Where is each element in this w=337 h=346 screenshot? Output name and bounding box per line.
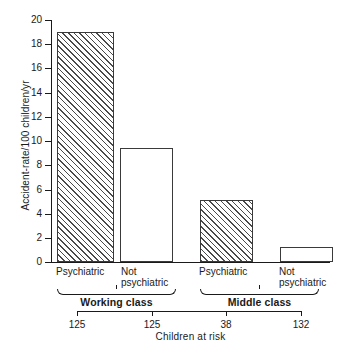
bar-label-line2: psychiatric — [279, 277, 337, 288]
y-tick-label-10: 10 — [20, 136, 42, 146]
bar-middle-class-psychiatric — [200, 200, 253, 262]
risk-tick-4 — [301, 311, 302, 316]
risk-label-1: 125 — [57, 319, 97, 330]
y-tick-label-2: 2 — [20, 233, 42, 243]
bar-working-class-psychiatric — [57, 32, 114, 262]
children-at-risk-axis-title: Children at risk — [51, 331, 330, 342]
y-tick-label-18: 18 — [20, 39, 42, 49]
risk-tick-2 — [152, 311, 153, 316]
group-label-working-class: Working class — [57, 296, 176, 308]
risk-tick-3 — [226, 311, 227, 316]
y-tick-label-12: 12 — [20, 112, 42, 122]
y-tick-label-14: 14 — [20, 88, 42, 98]
group-brace-tick-middle-class — [259, 285, 260, 289]
x-axis-line — [51, 262, 330, 263]
y-tick-label-0: 0 — [20, 257, 42, 267]
y-tick-label-20: 20 — [20, 15, 42, 25]
bar-working-class-not-psychiatric — [120, 148, 173, 262]
bar-label-working-class-psychiatric: Psychiatric — [56, 266, 120, 277]
y-tick-label-8: 8 — [20, 160, 42, 170]
bar-label-line1: Not — [279, 266, 337, 277]
bar-label-middle-class-psychiatric: Psychiatric — [199, 266, 263, 277]
children-at-risk-axis-line — [77, 311, 301, 312]
risk-label-2: 125 — [132, 319, 172, 330]
bar-middle-class-not-psychiatric — [280, 247, 333, 262]
y-tick-label-4: 4 — [20, 209, 42, 219]
group-brace-working-class — [57, 289, 176, 295]
risk-tick-1 — [77, 311, 78, 316]
bar-label-line1: Psychiatric — [199, 266, 263, 277]
plot-area — [51, 20, 330, 262]
group-brace-middle-class — [200, 289, 319, 295]
bar-label-working-class-not-psychiatric: Not psychiatric — [121, 266, 179, 288]
bar-label-line1: Not — [121, 266, 179, 277]
bar-label-middle-class-not-psychiatric: Not psychiatric — [279, 266, 337, 288]
bar-label-line1: Psychiatric — [56, 266, 120, 277]
group-brace-tick-working-class — [116, 285, 117, 289]
group-label-middle-class: Middle class — [200, 296, 319, 308]
y-tick-label-16: 16 — [20, 63, 42, 73]
bar-label-line2: psychiatric — [121, 277, 179, 288]
y-tick-label-6: 6 — [20, 185, 42, 195]
risk-label-3: 38 — [206, 319, 246, 330]
risk-label-4: 132 — [281, 319, 321, 330]
